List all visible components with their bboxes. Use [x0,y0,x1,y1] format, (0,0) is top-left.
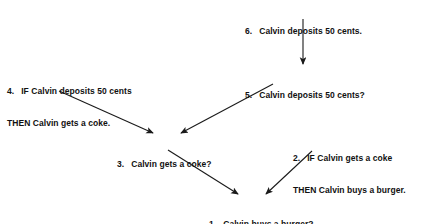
inference-diagram: 6.Calvin deposits 50 cents. 5.Calvin dep… [0,0,422,224]
node-6-text-line-1: Calvin deposits 50 cents. [259,26,362,36]
node-1-text-line-1: Calvin buys a burger? [223,219,313,224]
node-2-number: 2. [293,153,300,164]
node-4-text-line-2: THEN Calvin gets a coke. [7,118,132,129]
node-4-number: 4. [7,86,14,97]
node-3-line-1: 3.Calvin gets a coke? [117,159,212,170]
node-2-text-line-1: IF Calvin gets a coke [307,153,392,163]
node-5-number: 5. [245,90,252,101]
node-4-text-line-1: IF Calvin deposits 50 cents [21,86,131,96]
node-3-number: 3. [117,159,124,170]
node-5-goal: 5.Calvin deposits 50 cents? [245,69,365,122]
node-4-rule: 4.IF Calvin deposits 50 cents THEN Calvi… [7,65,132,149]
node-5-line-1: 5.Calvin deposits 50 cents? [245,90,365,101]
node-2-line-1: 2.IF Calvin gets a coke [293,153,406,164]
node-1-line-1: 1.Calvin buys a burger? [209,219,314,224]
node-2-text-line-2: THEN Calvin buys a burger. [293,185,406,196]
node-6-number: 6. [245,26,252,37]
node-5-text-line-1: Calvin deposits 50 cents? [259,90,365,100]
node-3-goal: 3.Calvin gets a coke? [117,138,212,191]
node-1-number: 1. [209,219,216,224]
node-6-fact: 6.Calvin deposits 50 cents. [245,5,362,58]
node-6-line-1: 6.Calvin deposits 50 cents. [245,26,362,37]
node-1-goal: 1.Calvin buys a burger? [209,198,314,224]
node-4-line-1: 4.IF Calvin deposits 50 cents [7,86,132,97]
node-3-text-line-1: Calvin gets a coke? [131,159,211,169]
